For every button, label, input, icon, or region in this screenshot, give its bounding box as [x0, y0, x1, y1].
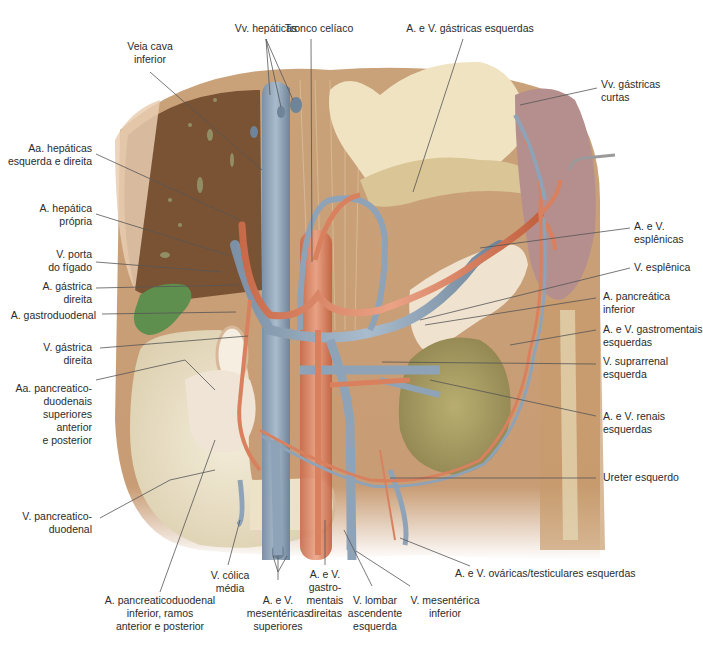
label-veia-cava-inferior: Veia cava inferior	[115, 40, 185, 66]
label-line: direita	[0, 293, 92, 306]
label-v-porta: V. porta do fígado	[0, 248, 92, 274]
label-gastromentais-direitas: A. e V. gastro- mentais direitas	[300, 568, 350, 620]
label-line: superiores	[243, 620, 313, 633]
label-aa-pancreaticoduodenais: Aa. pancreatico- duodenais superiores an…	[0, 382, 92, 447]
anatomy-figure: Vv. hepáticas Tronco celíaco A. e V. gás…	[0, 0, 703, 650]
label-line: Veia cava	[115, 40, 185, 53]
label-line: Aa. hepáticas	[0, 142, 92, 155]
label-line: própria	[0, 215, 92, 228]
label-gastromentais-esquerdas: A. e V. gastromentais esquerdas	[603, 323, 702, 349]
label-line: esquerda	[345, 620, 405, 633]
label-line: Tronco celíaco	[282, 22, 356, 35]
label-line: direitas	[300, 607, 350, 620]
label-line: duodenais	[0, 395, 92, 408]
label-line: A. e V.	[634, 220, 684, 233]
label-line: duodenal	[0, 523, 92, 536]
label-aa-hepaticas: Aa. hepáticas esquerda e direita	[0, 142, 92, 168]
label-line: e posterior	[0, 434, 92, 447]
label-line: V. mesentérica	[405, 594, 485, 607]
label-line: V. cólica	[200, 569, 260, 582]
label-line: mentais	[300, 594, 350, 607]
label-line: Aa. pancreatico-	[0, 382, 92, 395]
anatomy-illustration	[0, 0, 703, 650]
label-line: anterior	[0, 421, 92, 434]
label-line: Vv. gástricas	[601, 78, 660, 91]
label-hepatica-propria: A. hepática própria	[0, 202, 92, 228]
label-line: A. e V. renais	[603, 410, 665, 423]
label-line: V. pancreatico-	[0, 510, 92, 523]
label-line: esplênicas	[634, 233, 684, 246]
label-line: A. pancreática	[603, 290, 670, 303]
label-line: inferior	[405, 607, 485, 620]
label-line: A. pancreaticoduodenal	[100, 594, 220, 607]
label-vv-gastricas-curtas: Vv. gástricas curtas	[601, 78, 660, 104]
label-tronco-celiaco: Tronco celíaco	[282, 22, 356, 35]
label-ovaricas-testiculares: A. e V. ováricas/testiculares esquerdas	[455, 567, 636, 580]
label-line: V. esplênica	[634, 261, 690, 274]
label-line: A. e V.	[300, 568, 350, 581]
label-line: V. lombar	[345, 594, 405, 607]
label-line: V. suprarrenal	[603, 355, 668, 368]
label-line: gastro-	[300, 581, 350, 594]
label-gastricas-esquerdas: A. e V. gástricas esquerdas	[405, 22, 535, 35]
label-line: inferior	[603, 303, 670, 316]
label-gastroduodenal: A. gastroduodenal	[0, 309, 96, 322]
label-v-lombar-ascendente: V. lombar ascendente esquerda	[345, 594, 405, 633]
label-line: esquerdas	[603, 336, 702, 349]
label-line: anterior e posterior	[100, 620, 220, 633]
label-v-pancreaticoduodenal: V. pancreatico- duodenal	[0, 510, 92, 536]
label-line: A. gástrica	[0, 280, 92, 293]
label-v-colica-media: V. cólica média	[200, 569, 260, 595]
label-line: inferior	[115, 53, 185, 66]
label-ureter-esquerdo: Ureter esquerdo	[603, 471, 679, 484]
label-line: A. hepática	[0, 202, 92, 215]
label-suprarrenal-esquerda: V. suprarrenal esquerda	[603, 355, 668, 381]
label-v-mesenterica-inferior: V. mesentérica inferior	[405, 594, 485, 620]
label-line: A. e V. gastromentais	[603, 323, 702, 336]
label-line: superiores	[0, 408, 92, 421]
label-line: V. gástrica	[0, 341, 92, 354]
label-line: A. e V. ováricas/testiculares esquerdas	[455, 567, 636, 580]
label-line: A. gastroduodenal	[0, 309, 96, 322]
label-a-gastrica-direita: A. gástrica direita	[0, 280, 92, 306]
label-line: direita	[0, 354, 92, 367]
label-line: do fígado	[0, 261, 92, 274]
label-line: esquerda	[603, 368, 668, 381]
label-line: A. e V. gástricas esquerdas	[405, 22, 535, 35]
label-line: ascendente	[345, 607, 405, 620]
label-pancreaticoduodenal-inferior: A. pancreaticoduodenal inferior, ramos a…	[100, 594, 220, 633]
label-renais-esquerdas: A. e V. renais esquerdas	[603, 410, 665, 436]
label-line: esquerda e direita	[0, 155, 92, 168]
label-line: V. porta	[0, 248, 92, 261]
label-v-esplenica: V. esplênica	[634, 261, 690, 274]
label-line: esquerdas	[603, 423, 665, 436]
label-pancreatica-inferior: A. pancreática inferior	[603, 290, 670, 316]
label-line: curtas	[601, 91, 660, 104]
label-line: inferior, ramos	[100, 607, 220, 620]
label-v-gastrica-direita: V. gástrica direita	[0, 341, 92, 367]
label-esplenicas: A. e V. esplênicas	[634, 220, 684, 246]
label-line: Ureter esquerdo	[603, 471, 679, 484]
